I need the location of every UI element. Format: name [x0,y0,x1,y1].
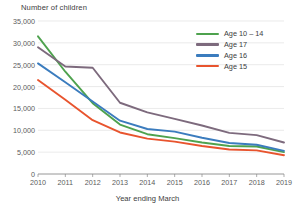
x-axis-tick-labels: 2010201120122013201420152016201720182019 [38,177,284,191]
legend-label: Age 17 [224,40,247,49]
legend-color-swatch [196,33,219,35]
legend-item[interactable]: Age 16 [196,51,263,61]
legend-label: Age 15 [224,62,247,71]
legend-item[interactable]: Age 17 [196,40,263,50]
y-axis-tick-label: 20,000 [13,82,35,91]
y-axis-tick-label: 25,000 [13,60,35,69]
x-axis-tick-label: 2019 [276,178,292,187]
y-axis-tick-labels: 05,00010,00015,00020,00025,00030,00035,0… [0,21,35,174]
x-axis-tick-label: 2017 [221,178,237,187]
x-axis-tick-label: 2011 [58,178,73,187]
legend-label: Age 10 – 14 [224,29,263,38]
x-axis-tick-label: 2010 [30,178,46,187]
y-axis-tick-label: 30,000 [13,38,35,47]
y-axis-tick-label: 5,000 [17,148,35,157]
legend-color-swatch [196,43,219,45]
y-axis-tick-label: 35,000 [13,17,35,26]
x-axis-tick-label: 2018 [249,178,265,187]
line-chart: Number of children 05,00010,00015,00020,… [0,0,295,210]
x-axis-tick-label: 2014 [139,178,155,187]
y-axis-title: Number of children [21,3,87,12]
legend-item[interactable]: Age 10 – 14 [196,29,263,39]
x-axis-title: Year ending March [0,194,295,203]
x-axis-tick-label: 2013 [112,178,128,187]
x-axis-tick-label: 2016 [194,178,210,187]
legend-item[interactable]: Age 15 [196,61,263,71]
y-axis-tick-label: 10,000 [13,126,35,135]
legend-color-swatch [196,54,219,56]
legend-color-swatch [196,65,219,67]
x-axis-tick-label: 2015 [167,178,183,187]
legend-label: Age 16 [224,51,247,60]
chart-legend: Age 10 – 14Age 17Age 16Age 15 [196,29,263,72]
x-axis-tick-label: 2012 [85,178,101,187]
y-axis-tick-label: 15,000 [13,104,35,113]
